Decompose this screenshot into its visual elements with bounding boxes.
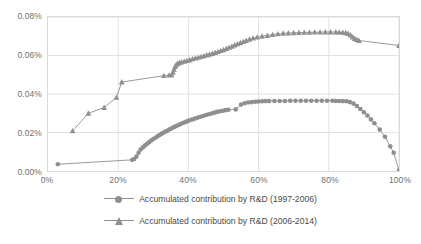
y-axis-tick-label: 0.04% xyxy=(2,89,42,99)
y-axis-tick-label: 0.02% xyxy=(2,128,42,138)
legend-marker-triangle-icon xyxy=(104,215,134,227)
series-circle xyxy=(56,98,399,171)
chart-container: 0.08% 0.06% 0.04% 0.02% 0.00% 0% 20% 40%… xyxy=(0,0,421,244)
series-triangle xyxy=(70,29,399,133)
legend-item[interactable]: Accumulated contribution by R&D (1997-20… xyxy=(0,188,421,210)
x-axis-tick-label: 40% xyxy=(173,175,203,185)
chart-canvas xyxy=(48,17,399,171)
plot-area xyxy=(47,16,400,172)
x-axis-tick-label: 100% xyxy=(385,175,415,185)
legend-label: Accumulated contribution by R&D (2006-20… xyxy=(139,216,317,226)
chart-legend: Accumulated contribution by R&D (1997-20… xyxy=(0,188,421,232)
y-axis-tick-label: 0.06% xyxy=(2,50,42,60)
x-axis-tick-label: 0% xyxy=(32,175,62,185)
x-axis-tick-label: 20% xyxy=(103,175,133,185)
legend-label: Accumulated contribution by R&D (1997-20… xyxy=(139,194,317,204)
x-axis-tick-label: 60% xyxy=(244,175,274,185)
x-axis-tick-label: 80% xyxy=(315,175,345,185)
legend-marker-circle-icon xyxy=(104,193,134,205)
y-axis-tick-label: 0.08% xyxy=(2,11,42,21)
legend-item[interactable]: Accumulated contribution by R&D (2006-20… xyxy=(0,210,421,232)
